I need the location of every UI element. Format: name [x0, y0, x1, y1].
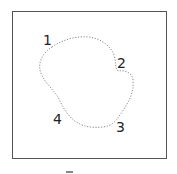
closed-curve — [0, 0, 177, 174]
point-label-4: 4 — [53, 112, 62, 126]
point-label-2: 2 — [117, 56, 126, 70]
point-label-3: 3 — [116, 120, 125, 134]
caption-fragment — [66, 171, 73, 173]
point-label-1: 1 — [43, 33, 52, 47]
